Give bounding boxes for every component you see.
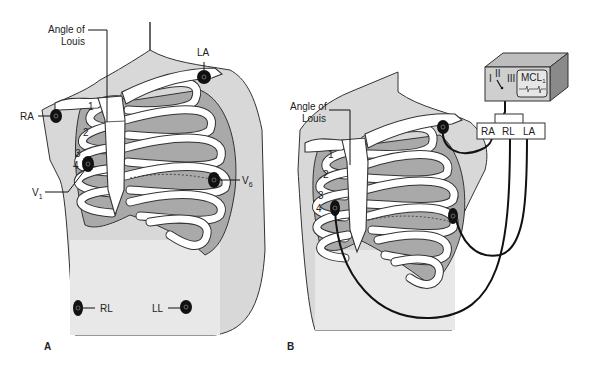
electrode-v1-a [82, 156, 94, 172]
electrode-rl-a [73, 300, 83, 316]
angle-of-louis-label-b: Angle of [290, 101, 327, 112]
rib-number: 3 [75, 148, 81, 159]
lead-option-i: I [489, 73, 492, 84]
ecg-monitor: MCL1 I II III [485, 53, 568, 101]
panel-label-b: B [287, 341, 294, 352]
angle-of-louis-label-a-line2: Louis [61, 36, 85, 47]
lead-option-iii: III [507, 73, 515, 84]
rib-number: 3 [318, 190, 324, 201]
electrode-ll-a [180, 300, 192, 314]
rib-number: 1 [88, 101, 94, 112]
rib-number: 2 [83, 127, 89, 138]
rib-number: 2 [323, 169, 329, 180]
panel-label-a: A [44, 341, 51, 352]
electrode-la-a [197, 70, 211, 84]
v1-label-a: V1 [32, 187, 43, 200]
rib-number: 4 [316, 203, 322, 214]
panel-a: 1 2 3 4 Angle of Louis RA LA V1 V6 RL LL… [20, 22, 265, 352]
electrode-v6-a [208, 172, 220, 188]
angle-of-louis-label-b-line2: Louis [302, 113, 326, 124]
la-label-a: LA [197, 47, 210, 58]
rib-number: 1 [328, 149, 334, 160]
rl-label-a: RL [100, 303, 113, 314]
ecg-lead-placement-diagram: 1 2 3 4 Angle of Louis RA LA V1 V6 RL LL… [0, 0, 590, 373]
electrode-la-b [448, 208, 458, 224]
angle-of-louis-label-a: Angle of [48, 24, 85, 35]
abdomen-a [70, 240, 220, 335]
panel-b: 1 2 3 4 RA RL LA MCL1 I II III [287, 53, 568, 352]
electrode-v1-b [330, 200, 340, 216]
electrode-ra-a [50, 109, 62, 123]
lead-option-ii: II [495, 68, 501, 79]
connector-label-la: LA [523, 126, 536, 137]
ll-label-a: LL [152, 303, 164, 314]
connector-label-ra: RA [481, 126, 495, 137]
ra-label-a: RA [20, 111, 34, 122]
connector-label-rl: RL [502, 126, 515, 137]
rib-number: 4 [73, 160, 79, 171]
electrode-ra-b [437, 120, 449, 134]
